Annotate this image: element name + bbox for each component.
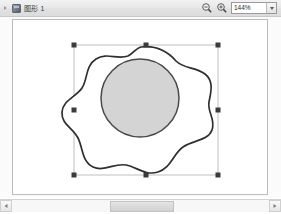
handle-bottom-center[interactable]	[144, 173, 149, 178]
arrow-left-icon[interactable]	[0, 200, 12, 212]
window-bottom-edge	[0, 212, 281, 214]
handle-bottom-left[interactable]	[72, 173, 77, 178]
document-title: 图形 1	[23, 4, 45, 13]
chevron-right-icon[interactable]	[3, 4, 10, 13]
horizontal-scrollbar[interactable]	[0, 199, 281, 212]
handle-top-left[interactable]	[72, 43, 77, 48]
chevron-down-icon[interactable]	[266, 3, 276, 13]
zoom-level-combobox[interactable]: 144%	[231, 2, 277, 14]
handle-middle-left[interactable]	[72, 108, 77, 113]
application-window: 图形 1 144%	[0, 0, 281, 214]
handle-top-center[interactable]	[144, 43, 149, 48]
zoom-level-value: 144%	[232, 3, 251, 13]
zoom-out-icon[interactable]	[201, 2, 213, 14]
scrollbar-track[interactable]	[12, 200, 269, 212]
arrow-right-icon[interactable]	[269, 200, 281, 212]
handle-top-right[interactable]	[216, 43, 221, 48]
zoom-in-icon[interactable]	[216, 2, 228, 14]
title-bar-left-group: 图形 1	[0, 4, 45, 13]
title-bar: 图形 1 144%	[0, 0, 281, 17]
drawing-canvas[interactable]	[13, 20, 269, 196]
drawing-page[interactable]	[12, 19, 268, 195]
handle-middle-right[interactable]	[216, 108, 221, 113]
work-area	[0, 17, 281, 197]
scrollbar-thumb[interactable]	[110, 201, 174, 212]
title-bar-right-group: 144%	[201, 2, 281, 14]
document-icon	[12, 4, 21, 13]
handle-bottom-right[interactable]	[216, 173, 221, 178]
inner-circle[interactable]	[101, 59, 179, 137]
